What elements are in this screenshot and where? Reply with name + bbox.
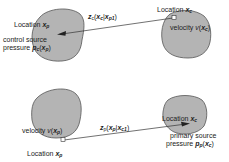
text: Location: [157, 6, 183, 13]
sub: c1: [121, 126, 127, 132]
text: control source: [3, 36, 47, 43]
sub: c: [205, 26, 208, 32]
source-marker-bottom-icon: [61, 138, 65, 142]
var: v: [195, 24, 199, 31]
sub: p: [113, 126, 116, 132]
source-marker-top-icon: [172, 16, 176, 20]
text: velocity: [22, 127, 45, 134]
sub: c: [189, 8, 192, 14]
primary-region-top: [162, 10, 211, 58]
sub: p: [57, 129, 60, 135]
control-source-label: control source: [3, 36, 47, 44]
var: v: [47, 127, 51, 134]
text: primary source: [170, 132, 216, 139]
sub: p1: [109, 15, 115, 21]
sub: p: [46, 46, 49, 52]
sub: p: [59, 152, 62, 158]
sub: c: [100, 15, 103, 21]
primary-location-label-bottom: Location xc: [162, 115, 197, 124]
sub: c: [209, 142, 212, 148]
control-location-label-top: Location xp: [14, 21, 49, 30]
sub: c: [36, 46, 39, 52]
text: Location: [162, 115, 188, 122]
transfer-label-top: zc(xc|xp1): [88, 13, 117, 22]
primary-location-label-top: Location xc: [157, 6, 192, 15]
sub: c: [194, 117, 197, 123]
primary-velocity-label-top: velocity v(xc): [170, 24, 210, 33]
text: pressure: [166, 140, 193, 147]
text: Location: [14, 21, 40, 28]
text: velocity: [170, 24, 193, 31]
text: Location: [27, 150, 53, 157]
control-location-label-bottom: Location xp: [27, 150, 62, 159]
transfer-label-bottom: zp(xp|xc1): [100, 124, 129, 133]
sub: p: [104, 126, 107, 132]
control-pressure-label: pressure pc(xp): [3, 44, 51, 53]
control-velocity-label-bottom: velocity v(xp): [22, 127, 62, 136]
text: pressure: [3, 44, 30, 51]
primary-pressure-label: pressure pp(xc): [166, 140, 214, 149]
sub: c: [92, 15, 95, 21]
primary-source-label: primary source: [170, 132, 216, 140]
sub: p: [46, 23, 49, 29]
sub: p: [199, 142, 202, 148]
